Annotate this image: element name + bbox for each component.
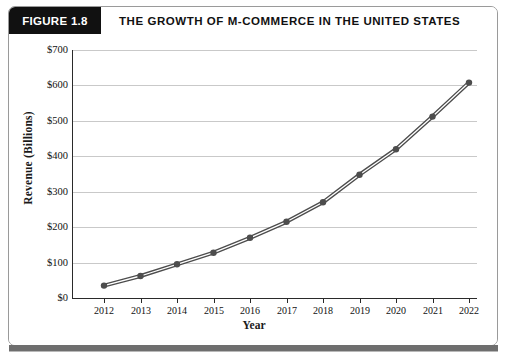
y-axis-tick-label: $400 [12, 150, 68, 161]
figure-container: FIGURE 1.8 THE GROWTH OF M-COMMERCE IN T… [0, 0, 506, 362]
y-axis-tick-label: $100 [12, 257, 68, 268]
x-axis-tick [141, 298, 142, 303]
series-line-outer [104, 83, 469, 286]
x-axis-tick [214, 298, 215, 303]
x-axis-tick [323, 298, 324, 303]
x-axis-tick [433, 298, 434, 303]
bottom-divider-shadow [9, 351, 498, 352]
figure-title: THE GROWTH OF M-COMMERCE IN THE UNITED S… [101, 7, 498, 34]
y-axis-tick-label: $600 [12, 79, 68, 90]
x-axis-title: Year [9, 319, 498, 331]
data-point-marker [320, 199, 326, 205]
figure-number-badge: FIGURE 1.8 [9, 7, 101, 34]
x-axis-tick [287, 298, 288, 303]
x-axis-tick-label: 2020 [376, 305, 416, 316]
x-axis-tick-label: 2017 [267, 305, 307, 316]
x-axis-tick [177, 298, 178, 303]
gridline [72, 156, 477, 157]
series-line-inner-highlight [104, 83, 469, 286]
gridline [72, 121, 477, 122]
y-axis-tick-label: $0 [12, 292, 68, 303]
x-axis-tick-label: 2015 [194, 305, 234, 316]
x-axis-tick-label: 2019 [340, 305, 380, 316]
x-axis-tick-label: 2021 [413, 305, 453, 316]
y-axis-line [72, 50, 73, 299]
x-axis-tick [250, 298, 251, 303]
x-axis-tick-label: 2014 [157, 305, 197, 316]
data-point-marker [393, 146, 399, 152]
chart-body: Revenue (Billions) Year $0$100$200$300$4… [9, 34, 498, 346]
y-axis-tick-label: $200 [12, 221, 68, 232]
data-point-marker [101, 282, 107, 288]
x-axis-line [72, 298, 477, 299]
data-series-plot [9, 34, 498, 346]
data-point-marker [429, 113, 435, 119]
gridline [72, 263, 477, 264]
gridline [72, 50, 477, 51]
y-axis-tick-label: $300 [12, 186, 68, 197]
gridline [72, 85, 477, 86]
x-axis-tick-label: 2022 [449, 305, 489, 316]
x-axis-tick [396, 298, 397, 303]
data-point-marker [210, 250, 216, 256]
data-point-marker [137, 273, 143, 279]
x-axis-tick-label: 2018 [303, 305, 343, 316]
data-point-marker [283, 219, 289, 225]
y-axis-tick-label: $500 [12, 115, 68, 126]
x-axis-tick [104, 298, 105, 303]
data-point-marker [356, 172, 362, 178]
x-axis-tick [469, 298, 470, 303]
y-axis-tick-label: $700 [12, 44, 68, 55]
x-axis-tick-label: 2012 [84, 305, 124, 316]
x-axis-tick-label: 2013 [121, 305, 161, 316]
gridline [72, 227, 477, 228]
gridline [72, 192, 477, 193]
figure-header: FIGURE 1.8 THE GROWTH OF M-COMMERCE IN T… [9, 7, 498, 35]
figure-frame: FIGURE 1.8 THE GROWTH OF M-COMMERCE IN T… [8, 6, 498, 346]
x-axis-tick [360, 298, 361, 303]
data-point-marker [247, 235, 253, 241]
x-axis-tick-label: 2016 [230, 305, 270, 316]
